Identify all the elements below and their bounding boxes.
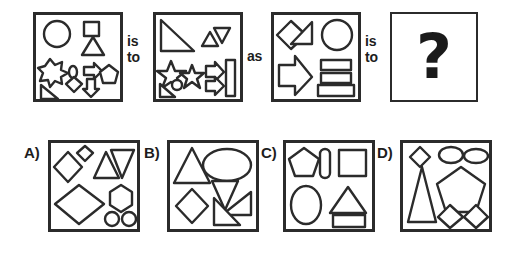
small-triangle-shape: [202, 32, 218, 46]
hexagon-shape: [110, 185, 132, 212]
diamond-shape: [54, 152, 82, 182]
ellipse-shape: [291, 186, 321, 224]
rectangle-shape: [321, 60, 351, 70]
option-b-panel[interactable]: [167, 140, 259, 232]
connector-as: as: [247, 48, 262, 64]
rectangle-shape: [333, 215, 365, 227]
large-diamond-shape: [55, 185, 104, 224]
small-ellipse-shape: [464, 149, 488, 163]
panel-3-shapes: [274, 15, 358, 99]
connector-line: as: [247, 48, 262, 64]
connector-line: is: [365, 33, 378, 49]
connector-line: is: [127, 33, 140, 49]
star-shape: [180, 65, 204, 88]
small-circle-shape: [122, 212, 136, 226]
option-c-label: C): [261, 144, 277, 161]
option-c-shapes: [286, 143, 372, 229]
connector-line: to: [127, 49, 140, 65]
small-inverted-triangle-shape: [214, 28, 230, 43]
pentagon-shape: [100, 65, 118, 83]
puzzle-stage: is to as: [0, 0, 507, 254]
right-arrow-shape: [206, 77, 224, 95]
right-arrow-shape: [84, 63, 102, 79]
small-circle-shape: [105, 212, 119, 226]
small-diamond-shape: [410, 147, 430, 167]
option-b-label: B): [144, 144, 160, 161]
option-b-shapes: [170, 143, 256, 229]
down-arrow-shape: [83, 79, 99, 97]
panel-1-shapes: [36, 15, 120, 99]
six-point-star-shape: [38, 59, 68, 87]
diamond-shape: [66, 77, 82, 92]
small-oval-shape: [69, 66, 77, 78]
small-circle-shape: [172, 80, 182, 90]
option-d-panel[interactable]: [400, 140, 492, 232]
small-diamond-shape: [77, 146, 93, 161]
square-shape: [84, 22, 99, 36]
triangle-shape: [330, 187, 366, 213]
pentagon-shape: [289, 148, 319, 176]
diamond-shape: [176, 189, 208, 223]
rectangle-shape: [321, 73, 351, 83]
option-d-label: D): [377, 144, 393, 161]
triangle-shape: [82, 37, 104, 55]
option-c-panel[interactable]: [283, 140, 375, 232]
rectangle-shape: [318, 85, 354, 96]
ellipse-shape: [203, 149, 251, 181]
prompt-panel-1[interactable]: [33, 12, 123, 102]
small-ellipse-shape: [439, 147, 463, 163]
large-right-triangle-shape: [161, 20, 194, 51]
connector-is-to-1: is to: [127, 33, 140, 65]
circle-shape: [44, 21, 70, 47]
option-a-panel[interactable]: [48, 140, 140, 232]
connector-line: to: [365, 49, 378, 65]
prompt-panel-2[interactable]: [153, 12, 243, 102]
large-right-arrow-shape: [279, 56, 312, 95]
option-d-shapes: [403, 143, 489, 229]
vertical-bar-shape: [226, 60, 235, 96]
option-a-label: A): [24, 144, 40, 161]
circle-shape: [322, 20, 352, 50]
connector-is-to-2: is to: [365, 33, 378, 65]
tall-triangle-shape: [408, 167, 436, 222]
square-shape: [339, 150, 366, 176]
small-vertical-oval-shape: [320, 149, 330, 178]
answer-panel[interactable]: ?: [390, 12, 478, 102]
prompt-panel-3[interactable]: [271, 12, 361, 102]
option-a-shapes: [51, 143, 137, 229]
question-mark-placeholder: ?: [392, 14, 476, 100]
panel-2-shapes: [156, 15, 240, 99]
